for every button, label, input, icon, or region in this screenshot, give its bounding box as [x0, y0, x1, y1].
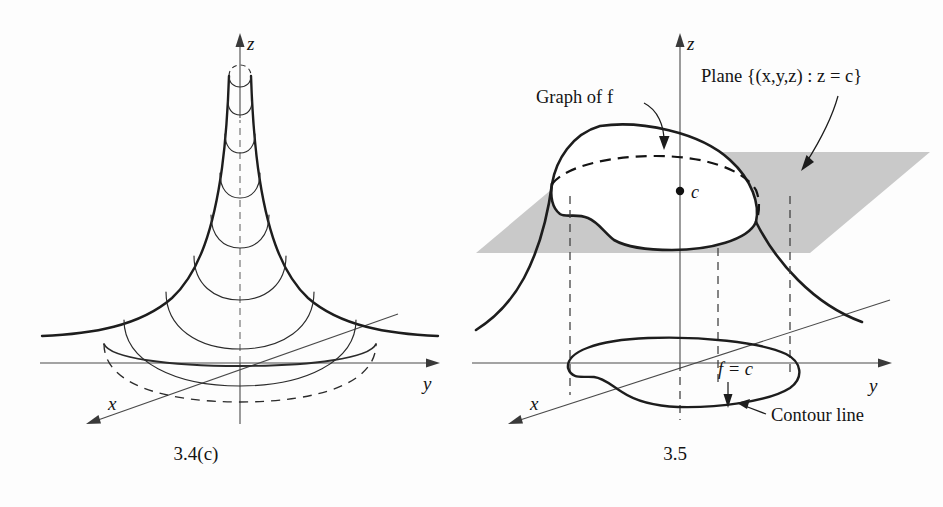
z-axis-label-left: z — [246, 33, 255, 54]
x-axis-label-left: x — [107, 393, 117, 414]
level-value-label: f = c — [718, 359, 754, 379]
figures-svg: z y x 3.4(c) — [0, 0, 943, 507]
height-marker-label: c — [691, 182, 699, 202]
annotation-contour-line: Contour line — [737, 399, 864, 425]
contour-curve — [568, 338, 799, 407]
graph-of-f-label: Graph of f — [536, 87, 614, 107]
z-axis-label-right: z — [686, 33, 695, 54]
figure-3-5: c — [472, 33, 930, 464]
y-axis-right-figure — [472, 359, 892, 368]
contour-line-label: Contour line — [771, 405, 864, 425]
level-curves — [66, 101, 356, 396]
caption-figure-3-4-c: 3.4(c) — [174, 443, 219, 465]
caption-figure-3-5: 3.5 — [663, 443, 687, 464]
y-axis-label-right: y — [867, 375, 878, 396]
y-axis-label-left: y — [421, 373, 432, 394]
x-axis-left-figure — [86, 314, 398, 424]
plane-label: Plane {(x,y,z) : z = c} — [701, 66, 862, 87]
figure-3-4-c: z y x 3.4(c) — [40, 33, 440, 465]
figure-sheet: z y x 3.4(c) — [0, 0, 943, 507]
x-axis-label-right: x — [529, 393, 539, 414]
